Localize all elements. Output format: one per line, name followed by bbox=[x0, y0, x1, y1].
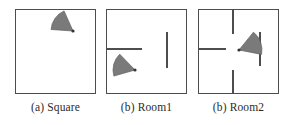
figure-root: (a) Square (b) Room1 (b) Room2 bbox=[0, 0, 302, 125]
agent-fov-cone-room1 bbox=[106, 9, 187, 94]
caption-room2: (b) Room2 bbox=[198, 101, 279, 113]
agent-fov-cone-wedge bbox=[51, 11, 73, 31]
agent-fov-cone-wedge bbox=[239, 32, 262, 54]
caption-room1: (b) Room1 bbox=[106, 101, 187, 113]
agent-fov-cone-room2 bbox=[198, 9, 279, 94]
agent-origin-dot bbox=[133, 68, 136, 71]
agent-origin-dot bbox=[237, 48, 240, 51]
caption-square: (a) Square bbox=[15, 101, 96, 113]
agent-fov-cone-square bbox=[15, 9, 96, 94]
panel-square bbox=[15, 9, 96, 94]
panel-room1 bbox=[106, 9, 187, 94]
panel-room2 bbox=[198, 9, 279, 94]
agent-origin-dot bbox=[71, 29, 74, 32]
agent-fov-cone-wedge bbox=[113, 54, 135, 76]
